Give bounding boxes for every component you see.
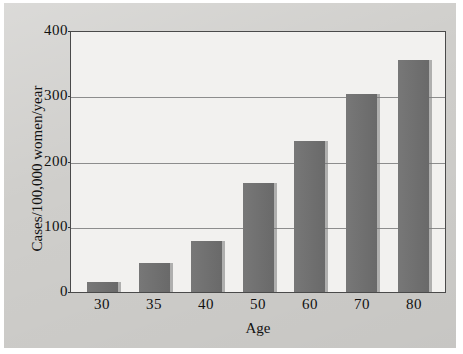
x-tick-label: 30 — [76, 296, 128, 318]
bar-50 — [243, 183, 274, 292]
bar-slot-80 — [387, 32, 439, 292]
bar-slot-40 — [180, 32, 232, 292]
bar-40 — [191, 241, 222, 292]
y-tick-label: 400 — [22, 22, 68, 39]
bar-30 — [87, 282, 118, 292]
bar-slot-50 — [232, 32, 284, 292]
bar-60 — [294, 141, 325, 292]
x-tick-label: 70 — [336, 296, 388, 318]
bar-35 — [139, 263, 170, 292]
bar-slot-60 — [284, 32, 336, 292]
x-tick-label: 35 — [128, 296, 180, 318]
bar-70 — [346, 94, 377, 292]
x-tick-label: 50 — [232, 296, 284, 318]
bar-slot-35 — [129, 32, 181, 292]
x-tick-label: 80 — [388, 296, 440, 318]
figure: 400 300 200 100 0 — [0, 0, 463, 354]
bar-80 — [398, 60, 429, 292]
x-tick-label: 60 — [284, 296, 336, 318]
y-axis-title: Cases/100,000 women/year — [29, 49, 46, 289]
x-axis-ticks: 30 35 40 50 60 70 80 — [70, 296, 446, 318]
bar-slot-70 — [336, 32, 388, 292]
x-tick-label: 40 — [180, 296, 232, 318]
plot-area — [70, 31, 446, 293]
bar-slot-30 — [77, 32, 129, 292]
bar-series — [71, 32, 445, 292]
x-axis-title: Age — [70, 320, 446, 337]
